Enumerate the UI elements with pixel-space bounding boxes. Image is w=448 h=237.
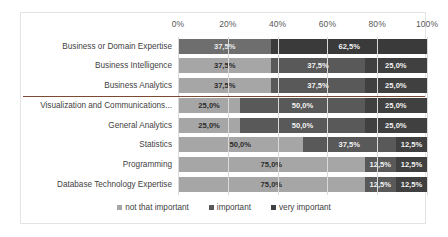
bar-segment-very-important: 25,0% [365, 118, 427, 133]
category-label: Programming [21, 160, 178, 169]
bar-segment-important: 50,0% [240, 98, 365, 113]
legend-swatch-icon [209, 205, 214, 210]
category-label: Database Technology Expertise [21, 180, 178, 189]
bar-segment-important: 12,5% [365, 157, 396, 172]
legend-label: not that important [125, 203, 189, 212]
x-axis-tick-0: 0% [158, 19, 198, 29]
stacked-bar: 75,0%12,5%12,5% [178, 157, 427, 172]
stacked-bar: 37,5%62,5% [178, 39, 427, 54]
legend-swatch-icon [271, 205, 276, 210]
bar-segment-not-that-important: 75,0% [178, 177, 365, 192]
bar-segment-very-important: 25,0% [365, 98, 427, 113]
x-axis-tick-20: 20% [208, 19, 248, 29]
x-axis-tick-40: 40% [258, 19, 298, 29]
bar-segment-important: 62,5% [271, 39, 427, 54]
category-label: Business or Domain Expertise [21, 42, 178, 51]
x-axis-tick-labels: 0%20%40%60%80%100% [21, 19, 427, 35]
legend-swatch-icon [117, 205, 122, 210]
bar-segment-not-that-important: 37,5% [178, 39, 271, 54]
x-axis-tick-80: 80% [357, 19, 397, 29]
bar-segment-very-important: 12,5% [396, 177, 427, 192]
bar-row: Visualization and Communications...25,0%… [21, 96, 427, 114]
bar-segment-important: 37,5% [303, 137, 396, 152]
bar-segment-not-that-important: 25,0% [178, 118, 240, 133]
bar-segment-important: 50,0% [240, 118, 365, 133]
bar-segment-not-that-important: 37,5% [178, 78, 271, 93]
bar-segment-very-important: 25,0% [365, 78, 427, 93]
legend-item[interactable]: not that important [117, 203, 189, 212]
x-axis-tick-100: 100% [407, 19, 447, 29]
bar-segment-very-important: 12,5% [396, 137, 427, 152]
category-group-divider [23, 96, 425, 97]
gridline-100 [427, 37, 428, 195]
bar-row: Business or Domain Expertise37,5%62,5% [21, 37, 427, 55]
legend-item[interactable]: very important [271, 203, 331, 212]
category-label: General Analytics [21, 121, 178, 130]
bar-row: General Analytics25,0%50,0%25,0% [21, 116, 427, 134]
bar-segment-very-important: 12,5% [396, 157, 427, 172]
bar-segment-not-that-important: 37,5% [178, 58, 271, 73]
legend-item[interactable]: important [209, 203, 251, 212]
bar-segment-important: 37,5% [271, 58, 364, 73]
stacked-bar: 25,0%50,0%25,0% [178, 118, 427, 133]
x-axis-tick-60: 60% [307, 19, 347, 29]
bar-row: Business Analytics37,5%37,5%25,0% [21, 77, 427, 95]
bar-row: Business Intelligence37,5%37,5%25,0% [21, 57, 427, 75]
chart-legend: not that importantimportantvery importan… [21, 199, 427, 215]
bar-segment-very-important: 25,0% [365, 58, 427, 73]
stacked-bar: 25,0%50,0%25,0% [178, 98, 427, 113]
bar-segment-not-that-important: 50,0% [178, 137, 303, 152]
legend-label: important [217, 203, 251, 212]
bar-row: Programming75,0%12,5%12,5% [21, 156, 427, 174]
category-label: Business Analytics [21, 81, 178, 90]
category-label: Business Intelligence [21, 61, 178, 70]
stacked-bar: 50,0%37,5%12,5% [178, 137, 427, 152]
bar-segment-important: 37,5% [271, 78, 364, 93]
legend-label: very important [279, 203, 331, 212]
bar-row: Statistics50,0%37,5%12,5% [21, 136, 427, 154]
category-label: Statistics [21, 140, 178, 149]
bar-rows: Business or Domain Expertise37,5%62,5%Bu… [21, 37, 427, 194]
bar-segment-important: 12,5% [365, 177, 396, 192]
stacked-bar: 37,5%37,5%25,0% [178, 58, 427, 73]
plot-area: Business or Domain Expertise37,5%62,5%Bu… [21, 37, 427, 195]
category-label: Visualization and Communications... [21, 101, 178, 110]
stacked-bar: 75,0%12,5%12,5% [178, 177, 427, 192]
bar-row: Database Technology Expertise75,0%12,5%1… [21, 176, 427, 194]
bar-segment-not-that-important: 25,0% [178, 98, 240, 113]
stacked-bar-chart: 0%20%40%60%80%100% Business or Domain Ex… [20, 12, 426, 224]
bar-segment-not-that-important: 75,0% [178, 157, 365, 172]
stacked-bar: 37,5%37,5%25,0% [178, 78, 427, 93]
